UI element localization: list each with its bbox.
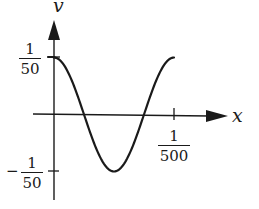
minus-sign: − [6,162,19,180]
y-tick-label-top: 1 50 [19,41,41,77]
y-axis-label: v [53,0,64,16]
x-axis [33,114,210,116]
y-tick-label-bottom: 1 50 [21,155,43,191]
x-axis-label: x [232,104,243,126]
cosine-graph: v x 1 50 − 1 50 1 500 [0,0,259,209]
y-axis-arrow-icon [48,20,60,40]
x-axis-arrow-icon [206,110,228,122]
x-tick-label: 1 500 [158,128,190,164]
